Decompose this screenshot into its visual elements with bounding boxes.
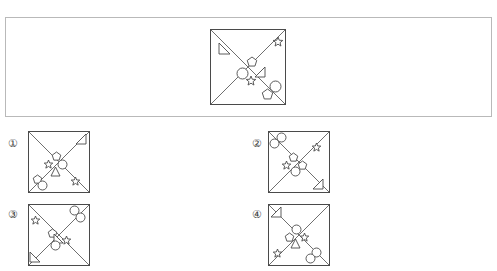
prompt-figure <box>210 29 286 105</box>
option-3-canvas <box>28 204 90 266</box>
question-panel <box>5 17 492 117</box>
option-2-canvas <box>268 131 330 193</box>
circle-shape <box>38 181 47 190</box>
circle-shape <box>76 213 85 222</box>
circle-shape <box>291 167 300 176</box>
option-1-label: ① <box>8 138 18 149</box>
option-3-label: ③ <box>8 209 18 220</box>
circle-shape <box>306 254 315 263</box>
circle-shape <box>58 160 67 169</box>
circle-shape <box>292 225 301 234</box>
option-2-label: ② <box>252 138 262 149</box>
option-2-figure[interactable] <box>268 131 330 193</box>
circle-shape <box>51 241 60 250</box>
puzzle-page: ①②③④ <box>0 0 497 271</box>
circle-shape <box>270 81 281 92</box>
option-3-figure[interactable] <box>28 204 90 266</box>
prompt-figure-canvas <box>210 29 286 105</box>
circle-shape <box>270 139 279 148</box>
option-4-figure[interactable] <box>268 204 330 266</box>
option-4-label: ④ <box>252 209 262 220</box>
option-1-canvas <box>28 131 90 193</box>
option-4-canvas <box>268 204 330 266</box>
circle-shape <box>237 68 248 79</box>
option-1-figure[interactable] <box>28 131 90 193</box>
